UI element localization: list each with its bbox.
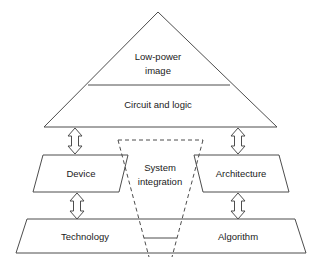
double-headed-vertical-arrow-icon [231, 193, 245, 219]
system-integration-right-edge [172, 140, 203, 257]
double-headed-vertical-arrow-icon [231, 128, 245, 154]
foundation-block [16, 219, 306, 253]
hierarchy-pyramid-diagram: Low-power image Circuit and logic Device… [0, 0, 321, 268]
pyramid-apex-label-line1: Low-power [135, 51, 181, 62]
pyramid-apex-label-line2: image [145, 65, 171, 76]
diagram-canvas: Low-power image Circuit and logic Device… [0, 0, 321, 268]
technology-block-label: Technology [61, 231, 109, 242]
algorithm-block-label: Algorithm [218, 231, 258, 242]
pyramid-second-tier-label: Circuit and logic [124, 99, 192, 110]
device-block-label: Device [66, 168, 95, 179]
system-integration-label-line2: integration [138, 176, 182, 187]
double-headed-vertical-arrow-icon [68, 128, 82, 154]
architecture-block-label: Architecture [216, 168, 267, 179]
system-integration-label-line1: System [144, 162, 176, 173]
system-integration-left-edge [118, 140, 149, 257]
double-headed-vertical-arrow-icon [70, 193, 84, 219]
